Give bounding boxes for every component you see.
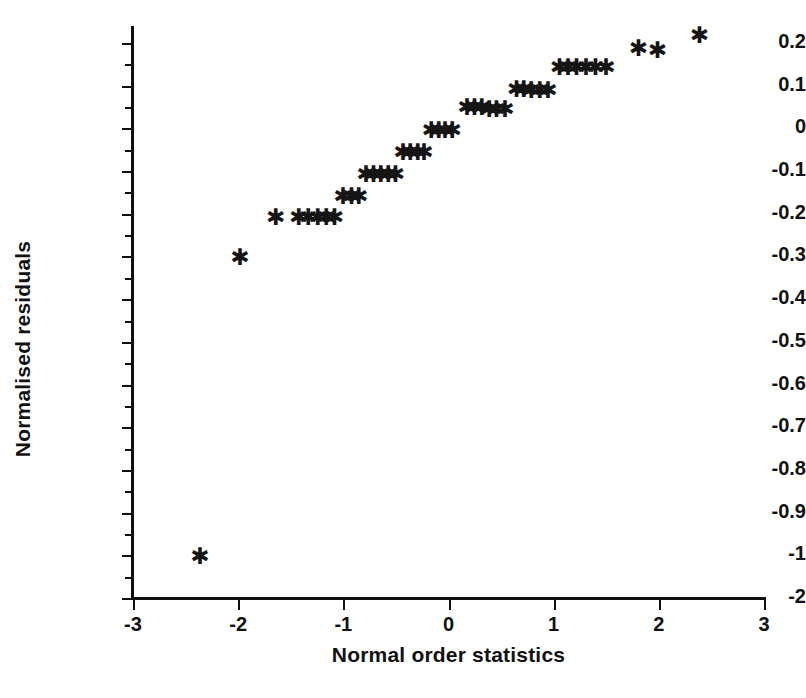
x-tick-label: 1 <box>524 613 584 636</box>
y-tick <box>122 555 133 557</box>
x-tick-label: 3 <box>734 613 794 636</box>
x-tick-label: 0 <box>419 613 479 636</box>
x-tick-label: 2 <box>629 613 689 636</box>
data-point <box>538 81 554 97</box>
plot-area <box>133 26 764 598</box>
y-tick-minor <box>125 363 133 365</box>
y-tick <box>122 513 133 515</box>
data-point <box>495 100 511 116</box>
y-tick-minor <box>125 235 133 237</box>
x-tick <box>238 598 240 610</box>
data-point <box>349 187 365 203</box>
data-point <box>325 208 341 224</box>
y-tick-minor <box>125 107 133 109</box>
y-tick-minor <box>125 278 133 280</box>
y-tick <box>122 342 133 344</box>
y-tick-minor <box>125 406 133 408</box>
y-tick-minor <box>125 150 133 152</box>
data-point <box>596 58 612 74</box>
y-tick-minor <box>125 534 133 536</box>
y-tick <box>122 128 133 130</box>
y-tick-minor <box>125 321 133 323</box>
data-point <box>690 26 706 42</box>
y-tick-minor <box>125 491 133 493</box>
data-point <box>266 208 282 224</box>
x-tick <box>343 598 345 610</box>
x-tick-label: -2 <box>208 613 268 636</box>
y-tick-minor <box>125 449 133 451</box>
x-tick <box>449 598 451 610</box>
y-tick-minor <box>125 64 133 66</box>
y-tick <box>122 385 133 387</box>
data-point <box>230 248 246 264</box>
normal-probability-plot: Normalised residuals 0.20.10-0.1-0.2-0.3… <box>0 0 806 698</box>
y-tick <box>122 598 133 600</box>
y-tick <box>122 256 133 258</box>
x-tick <box>764 598 766 610</box>
x-tick-label: -3 <box>103 613 163 636</box>
data-point <box>414 143 430 159</box>
y-tick <box>122 470 133 472</box>
y-tick <box>122 299 133 301</box>
y-tick-minor <box>125 192 133 194</box>
y-tick <box>122 43 133 45</box>
x-tick <box>133 598 135 610</box>
x-tick <box>554 598 556 610</box>
data-point <box>386 165 402 181</box>
data-point <box>629 39 645 55</box>
data-point <box>648 41 664 57</box>
y-tick-minor <box>125 577 133 579</box>
data-point <box>190 547 206 563</box>
y-tick <box>122 427 133 429</box>
x-axis-title: Normal order statistics <box>133 643 764 667</box>
x-tick <box>659 598 661 610</box>
y-axis-title: Normalised residuals <box>0 0 46 698</box>
x-tick-label: -1 <box>313 613 373 636</box>
y-tick <box>122 86 133 88</box>
data-point <box>443 121 459 137</box>
y-tick <box>122 171 133 173</box>
y-tick <box>122 214 133 216</box>
